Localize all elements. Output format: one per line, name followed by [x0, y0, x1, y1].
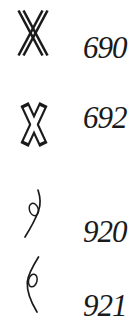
double-stroke-x-sign-icon	[16, 9, 50, 57]
right-bulge-curve-loop-sign-icon	[23, 187, 43, 240]
outline-x-sign-icon	[20, 102, 48, 148]
left-bulge-curve-loop-sign-icon	[25, 255, 42, 314]
sign-number-921: 921	[83, 290, 127, 321]
sign-list-page: 690 692 920 921	[0, 0, 133, 327]
sign-number-690: 690	[83, 32, 127, 63]
sign-number-692: 692	[83, 102, 127, 133]
sign-number-920: 920	[83, 216, 127, 247]
